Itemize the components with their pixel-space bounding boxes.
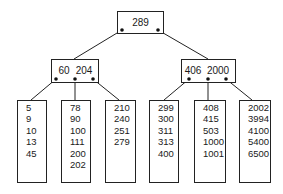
leaf-key: 200 <box>70 148 86 159</box>
internal-left-pointer-3 <box>91 77 95 81</box>
leaf-key: 10 <box>26 125 37 136</box>
leaf-key: 13 <box>26 136 37 147</box>
leaf-key: 299 <box>158 102 174 113</box>
internal-left-key-1: 60 <box>58 65 70 76</box>
leaf-key: 202 <box>70 159 86 170</box>
root-key: 289 <box>132 17 149 28</box>
leaf-key: 415 <box>203 113 219 124</box>
leaf-node-4: 299300311313400 <box>150 101 179 183</box>
leaf-node-3: 210240251279 <box>106 101 136 183</box>
leaf-key: 311 <box>158 125 173 136</box>
leaf-key: 6500 <box>248 148 269 159</box>
leaf-key: 9 <box>26 113 31 124</box>
leaf-key: 3994 <box>248 113 269 124</box>
internal-left-key-2: 204 <box>76 65 93 76</box>
leaf-key: 100 <box>70 125 86 136</box>
internal-left-pointer-2 <box>73 77 77 81</box>
leaf-key: 45 <box>26 148 37 159</box>
leaf-key: 210 <box>114 102 130 113</box>
leaf-key: 1001 <box>203 148 224 159</box>
root-pointer-left <box>120 28 124 32</box>
edge-root-left <box>74 30 122 59</box>
leaf-key: 5 <box>26 102 31 113</box>
leaf-node-6: 20023994410054006500 <box>240 101 271 183</box>
leaf-key: 90 <box>70 113 81 124</box>
leaf-key: 4100 <box>248 125 269 136</box>
leaf-key: 251 <box>114 125 130 136</box>
leaf-node-5: 40841550310001001 <box>195 101 226 183</box>
leaf-key: 313 <box>158 136 174 147</box>
leaf-key: 408 <box>203 102 219 113</box>
root-pointer-right <box>156 28 160 32</box>
leaf-key: 503 <box>203 125 219 136</box>
internal-right-pointer-1 <box>187 77 191 81</box>
internal-right-pointer-2 <box>206 77 210 81</box>
internal-right-key-1: 406 <box>185 65 202 76</box>
leaf-key: 111 <box>70 136 84 147</box>
leaf-key: 400 <box>158 148 174 159</box>
internal-right-pointer-3 <box>224 77 228 81</box>
leaf-key: 240 <box>114 113 130 124</box>
leaf-key: 300 <box>158 113 174 124</box>
leaf-node-1: 59101345 <box>18 101 47 183</box>
leaf-key: 78 <box>70 102 81 113</box>
leaf-key: 5400 <box>248 136 269 147</box>
leaf-key: 279 <box>114 136 130 147</box>
leaf-node-2: 7890100111200202 <box>62 101 91 183</box>
internal-right-key-2: 2000 <box>207 65 230 76</box>
leaf-key: 2002 <box>248 102 269 113</box>
leaf-key: 1000 <box>203 136 224 147</box>
internal-left-pointer-1 <box>54 77 58 81</box>
edge-root-right <box>158 30 208 59</box>
leaf-nodes: 5910134578901001112002022102402512792993… <box>18 101 271 183</box>
b-tree-diagram: 289 60 204 406 2000 59101345789010011120… <box>0 0 283 194</box>
